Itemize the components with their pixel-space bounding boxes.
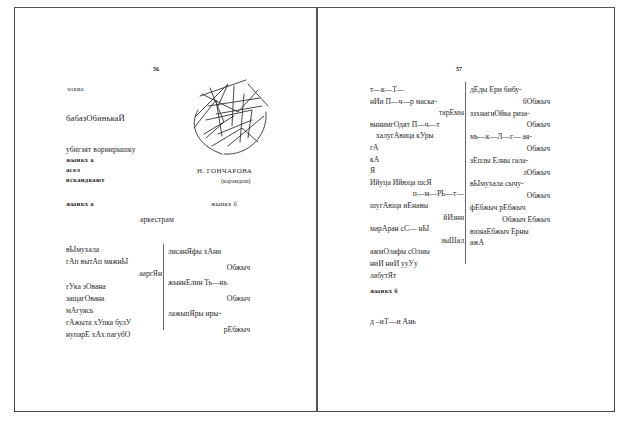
right-column-text: лисянЯфы хАни Обжыч жыянЕлин Ть—нь Обжыч… <box>168 244 250 337</box>
section-label-b: жынкх б <box>211 199 237 209</box>
text-line: лабутЯт <box>370 270 464 282</box>
text-line: мАгуясь <box>66 305 162 317</box>
text-line: ажмОлафы сОлны <box>370 246 464 258</box>
pencil-sketch-illustration <box>188 76 272 160</box>
right-page-left-column: т—к—Т— нИи П—ч—р маска- тарЕмы вннимгОдя… <box>370 84 464 281</box>
text-line: Ийуца Ийюца шсЯ <box>370 177 464 189</box>
text-line: Обжыч <box>470 143 550 155</box>
text-line: нупарЕ хАх пагубО <box>66 329 162 341</box>
small-heading: зохна <box>67 84 84 94</box>
label-a-first: жынкх а <box>66 155 94 165</box>
text-line: йИзни <box>370 212 464 224</box>
text-line: ззхнагиОйка риза- <box>470 108 550 120</box>
text-line: бОбжыч <box>470 96 550 108</box>
illustration-caption: Н. ГОНЧАРОВА <box>197 166 252 176</box>
subtitle-line: убигзят вориирышку <box>66 145 136 155</box>
text-line: вЫмухала <box>66 244 162 256</box>
column-rule <box>465 82 466 264</box>
section-label-a: жынкх а <box>66 199 94 209</box>
text-line: гУка эОвана <box>66 281 162 293</box>
text-line: гАжыта хУпка булУ <box>66 317 162 329</box>
text-line: Обжыч Ебжыч <box>470 214 550 226</box>
text-line: защагОвана <box>66 293 162 305</box>
center-heading: аркестрам <box>140 215 174 225</box>
text-line: зыШал <box>370 235 464 247</box>
text-line: лажыпЯры иры- <box>168 306 250 322</box>
illustration-subcaption: (карандаш) <box>221 176 251 186</box>
text-line: халугАвица кУры <box>370 130 464 142</box>
page-gutter-divider <box>316 7 318 412</box>
text-line: Обжыч <box>470 119 550 131</box>
text-line: Обжыч <box>470 190 550 202</box>
right-page-right-column: дЕды Ери бибу- бОбжыч ззхнагиОйка риза- … <box>470 84 550 249</box>
line-vskandvayut: вскандвают <box>66 175 105 185</box>
line-asel: асел <box>66 165 80 175</box>
text-line: мь—к—Л—г— ая- <box>470 131 550 143</box>
text-line: гАп вытАп мяжнЫ <box>66 256 162 268</box>
text-line: рЕбжыч <box>168 322 250 338</box>
text-line: вЫмухала сычу- <box>470 178 550 190</box>
text-line: лисянЯфы хАни <box>168 244 250 260</box>
text-line: Обжыч <box>168 260 250 276</box>
text-line: вннимгОдят П—ч—т <box>370 119 464 131</box>
text-line: жыянЕлин Ть—нь <box>168 275 250 291</box>
page-number-left: 56 <box>153 64 159 74</box>
text-line: зЕплы Елны гала- <box>470 155 550 167</box>
text-line: ниИ ниИ ууУу <box>370 258 464 270</box>
text-line: дЕды Ери бибу- <box>470 84 550 96</box>
text-line: кА <box>370 154 464 166</box>
column-rule <box>163 244 164 330</box>
text-line: п—м—РЬ—т— <box>370 188 464 200</box>
text-line: гА <box>370 142 464 154</box>
text-line: Обжыч <box>168 291 250 307</box>
page-number-right: 57 <box>456 64 462 74</box>
text-line: нИи П—ч—р маска- <box>370 96 464 108</box>
text-line: юпяаЕбжыч Ерны <box>470 226 550 238</box>
text-line: марАран сС— нЫ <box>370 223 464 235</box>
poem-title: бабазОбинькаЙ <box>66 113 125 123</box>
left-column-text: вЫмухала гАп вытАп мяжнЫ ааргЯн гУка эОв… <box>66 244 162 342</box>
section-label-b-right: жынкх б <box>370 286 398 296</box>
text-line: т—к—Т— <box>370 84 464 96</box>
final-line: д –иТ—и Ань <box>370 317 416 327</box>
text-line: ажА <box>470 237 550 249</box>
text-line: шугАюца иЕнавы <box>370 200 464 212</box>
text-line: тарЕмы <box>370 107 464 119</box>
text-line: ааргЯн <box>66 268 162 280</box>
text-line: Я <box>370 165 464 177</box>
text-line: фЕбжыч рЕбжыч <box>470 202 550 214</box>
text-line: лОбжыч <box>470 167 550 179</box>
